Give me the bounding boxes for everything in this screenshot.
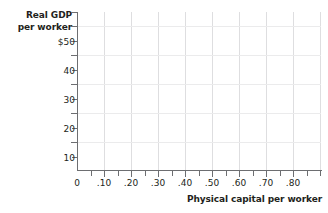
gridline-vertical-x070 xyxy=(266,12,267,170)
gridline-vertical-x080 xyxy=(293,12,294,170)
y-tick-top xyxy=(71,12,78,13)
y-axis-title: Real GDP per worker xyxy=(0,9,72,33)
gridline-horizontal-y40 xyxy=(77,55,321,56)
x-axis-title: Physical capital per worker xyxy=(0,194,322,204)
y-axis-title-line-1: Real GDP xyxy=(0,9,72,21)
x-tick-major-010 xyxy=(104,171,105,177)
gridline-vertical-x010 xyxy=(104,12,105,170)
x-tick-label-030: .30 xyxy=(145,179,171,188)
gridline-horizontal-y20 xyxy=(77,113,321,114)
x-tick-label-080: .80 xyxy=(280,179,306,188)
gridline-vertical-x020 xyxy=(131,12,132,170)
gridline-horizontal-y50 xyxy=(77,26,321,27)
x-tick-minor-015 xyxy=(118,171,119,176)
x-tick-minor-055 xyxy=(226,171,227,176)
y-tick-label-30: 30 xyxy=(27,96,75,105)
gridline-vertical-x060 xyxy=(239,12,240,170)
y-tick-minor-45b xyxy=(71,26,78,27)
x-tick-major-080 xyxy=(293,171,294,177)
gridline-vertical-x050 xyxy=(212,12,213,170)
x-tick-label-0: 0 xyxy=(64,179,90,188)
x-tick-major-030 xyxy=(158,171,159,177)
y-tick-major-40 xyxy=(71,55,78,56)
x-tick-minor-025 xyxy=(145,171,146,176)
y-tick-major-10 xyxy=(71,142,78,143)
x-tick-major-020 xyxy=(131,171,132,177)
x-tick-minor-085 xyxy=(307,171,308,176)
y-axis-line xyxy=(77,12,78,171)
y-axis-title-line-2: per worker xyxy=(0,21,72,33)
y-tick-label-50: $50 xyxy=(27,38,75,47)
gridline-horizontal-y10 xyxy=(77,142,321,143)
x-tick-major-040 xyxy=(185,171,186,177)
x-tick-minor-005 xyxy=(91,171,92,176)
x-tick-label-040: .40 xyxy=(172,179,198,188)
plot-area xyxy=(77,12,321,170)
x-tick-minor-090 xyxy=(320,171,321,176)
x-tick-minor-035 xyxy=(172,171,173,176)
x-tick-major-060 xyxy=(239,171,240,177)
x-tick-label-050: .50 xyxy=(199,179,225,188)
x-tick-label-060: .60 xyxy=(226,179,252,188)
gridline-vertical-x030 xyxy=(158,12,159,170)
gridline-vertical-right-edge xyxy=(320,12,321,170)
gridline-horizontal-y30 xyxy=(77,84,321,85)
x-tick-minor-045 xyxy=(199,171,200,176)
x-tick-minor-075 xyxy=(280,171,281,176)
y-tick-major-30 xyxy=(71,84,78,85)
y-tick-major-20 xyxy=(71,113,78,114)
x-tick-major-050 xyxy=(212,171,213,177)
production-function-chart: Real GDP per worker $50 40 30 20 xyxy=(0,0,328,213)
x-tick-label-070: .70 xyxy=(253,179,279,188)
y-tick-label-40: 40 xyxy=(27,67,75,76)
x-tick-label-010: .10 xyxy=(91,179,117,188)
y-tick-label-10: 10 xyxy=(27,154,75,163)
x-tick-minor-065 xyxy=(253,171,254,176)
gridline-vertical-x040 xyxy=(185,12,186,170)
x-tick-label-020: .20 xyxy=(118,179,144,188)
x-tick-major-070 xyxy=(266,171,267,177)
y-tick-label-20: 20 xyxy=(27,125,75,134)
